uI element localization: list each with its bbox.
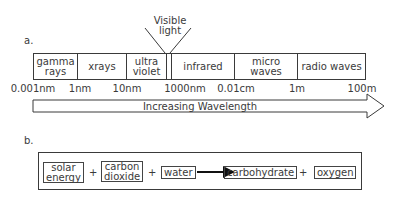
plus-sign: + [89,167,97,178]
term-carbohydrate: carbohydrate [224,166,297,179]
part-b-label: b. [24,136,34,146]
term-carbon-dioxide: carbondioxide [101,161,143,182]
term-water: water [161,166,196,179]
equation-box: solarenergy + carbondioxide + water carb… [38,152,362,190]
term-solar-energy: solarenergy [43,162,84,183]
plus-sign: + [299,167,307,178]
arrow-label: Increasing Wavelength [33,102,367,112]
plus-sign: + [148,167,156,178]
term-oxygen: oxygen [314,166,356,179]
